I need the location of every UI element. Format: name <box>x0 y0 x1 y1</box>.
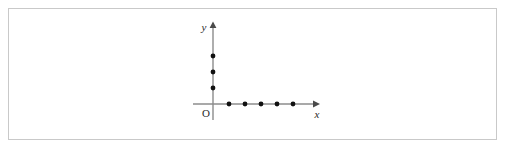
data-point-x5 <box>291 102 296 107</box>
coordinate-plane-figure: y x O <box>0 0 506 153</box>
x-axis-arrow-icon <box>313 101 320 108</box>
origin-label: O <box>202 107 210 119</box>
data-point-x4 <box>275 102 280 107</box>
data-point-y2 <box>211 70 216 75</box>
data-point-x1 <box>227 102 232 107</box>
data-point-x3 <box>259 102 264 107</box>
y-axis-label: y <box>201 21 207 33</box>
data-point-y1 <box>211 86 216 91</box>
x-axis-label: x <box>314 108 320 120</box>
data-point-y3 <box>211 54 216 59</box>
y-axis-arrow-icon <box>210 22 217 29</box>
data-point-x2 <box>243 102 248 107</box>
figure-root: y x O <box>0 0 506 153</box>
